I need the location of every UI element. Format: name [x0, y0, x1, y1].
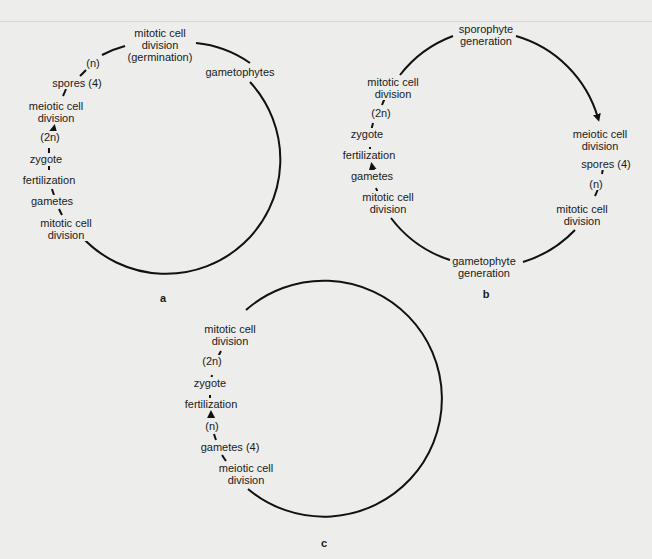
panel-c-letter: c	[321, 537, 327, 549]
a-haploid-label: (n)	[85, 57, 100, 69]
a-spores-label: spores (4)	[51, 77, 103, 89]
a-fertilization-label: fertilization	[22, 174, 77, 186]
b-gametes-label: gametes	[350, 170, 394, 182]
b-meiotic-label: meiotic cell division	[572, 128, 628, 152]
b-mitotic-left-top-label: mitotic cell division	[366, 76, 419, 100]
a-gametes-label: gametes	[30, 195, 74, 207]
c-fertilization-label: fertilization	[184, 398, 239, 410]
b-gametophyte-generation-label: gametophyte generation	[451, 255, 517, 279]
a-mitotic-bottom-label: mitotic cell division	[39, 217, 92, 241]
panel-b-letter: b	[483, 288, 490, 300]
a-zygote-label: zygote	[29, 153, 63, 165]
c-mitotic-label: mitotic cell division	[203, 323, 256, 347]
b-spores-label: spores (4)	[580, 158, 632, 170]
b-zygote-label: zygote	[350, 128, 384, 140]
a-meiotic-label: meiotic cell division	[28, 100, 84, 124]
c-diploid-label: (2n)	[201, 355, 223, 367]
panel-a-letter: a	[160, 292, 166, 304]
b-sporophyte-generation-label: sporophyte generation	[458, 23, 514, 47]
b-mitotic-right-label: mitotic cell division	[555, 203, 608, 227]
b-mitotic-left-bottom-label: mitotic cell division	[361, 191, 414, 215]
c-gametes-label: gametes (4)	[200, 441, 261, 453]
b-fertilization-label: fertilization	[342, 149, 397, 161]
a-mitotic-germination-label: mitotic cell division (germination)	[127, 27, 194, 63]
b-haploid-label: (n)	[588, 178, 603, 190]
c-meiotic-label: meiotic cell division	[218, 462, 274, 486]
c-zygote-label: zygote	[193, 377, 227, 389]
panel-b-cycle	[370, 36, 605, 262]
a-diploid-label: (2n)	[39, 131, 61, 143]
b-diploid-label: (2n)	[370, 107, 392, 119]
c-haploid-label: (n)	[204, 420, 219, 432]
a-gametophytes-label: gametophytes	[204, 66, 275, 78]
